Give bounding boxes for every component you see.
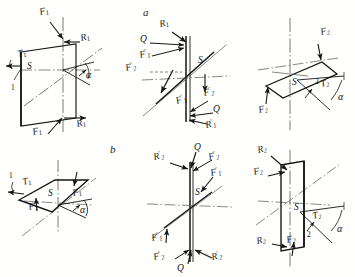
label-a2-F1-prime-bottom: F′1 xyxy=(178,96,189,107)
label-a2-F2-prime-left: F′2 xyxy=(127,63,138,74)
label-a1-R1-top: R1 xyxy=(82,34,91,44)
label-b2-Q-bottom: Q xyxy=(177,264,184,274)
label-a2-Q-bottom: Q xyxy=(213,105,220,115)
row-label-a: a xyxy=(143,6,149,18)
label-b3-S: S xyxy=(294,203,299,213)
label-b3-R2-top: R2 xyxy=(259,146,268,156)
label-b3-alpha: α xyxy=(337,224,342,234)
label-a3-S: S xyxy=(292,78,297,88)
diagram-vectors xyxy=(0,0,355,277)
row-label-b: b xyxy=(110,143,116,155)
label-a3-T2: T2 xyxy=(322,80,331,90)
label-b3-F2-bottom: F2 xyxy=(288,236,297,246)
label-b2-F1-prime-bottom: F′1 xyxy=(153,233,164,244)
label-a1-alpha: α xyxy=(86,70,91,80)
label-b3-two: 2 xyxy=(307,231,311,239)
label-a1-S: S xyxy=(27,62,32,72)
panel-b3-vectors xyxy=(268,156,344,256)
figure-canvas: a b F1 R1 T1 S 1 α F1 R1 R1 Q F′1 S F′2 … xyxy=(0,0,355,277)
label-a1-F1-top: F1 xyxy=(41,8,50,18)
label-b2-Q-top: Q xyxy=(194,143,201,153)
label-a1-T1: T1 xyxy=(19,50,28,60)
label-b2-F2-prime-bottom: F′2 xyxy=(155,252,166,263)
label-b1-F1-right: F1 xyxy=(74,189,83,199)
label-b2-F1-prime-top: F′1 xyxy=(212,168,223,179)
panel-b1-geometry xyxy=(19,160,96,236)
label-b2-F2-prime-top: F′2 xyxy=(210,152,221,163)
label-b2-R2-prime-bottom: R′2 xyxy=(213,252,224,263)
label-a3-two: 2 xyxy=(315,78,319,86)
label-a3-alpha: α xyxy=(338,92,343,102)
label-a2-R1-prime: R′1 xyxy=(207,120,218,131)
label-b3-F2-top: F2 xyxy=(255,168,264,178)
label-b2-S: S xyxy=(195,188,200,198)
label-b3-R2-bottom: R2 xyxy=(258,237,267,247)
label-b3-T2: T2 xyxy=(314,212,323,222)
label-b1-one: 1 xyxy=(9,172,13,180)
label-a1-F1-bottom: F1 xyxy=(34,128,43,138)
label-a2-S: S xyxy=(198,56,203,66)
label-a1-one: 1 xyxy=(11,84,15,92)
label-a1-R1-bottom: R1 xyxy=(78,120,87,130)
label-b1-alpha: α xyxy=(80,205,85,215)
panel-a3-vectors xyxy=(266,44,344,110)
label-a3-F2-bottom: F2 xyxy=(260,106,269,116)
label-b1-S: S xyxy=(48,189,53,199)
label-a2-F2-prime-right: F′2 xyxy=(205,88,216,99)
label-a3-F2-top: F2 xyxy=(322,28,331,38)
label-b1-F1-left: F1 xyxy=(30,203,39,213)
label-a2-F1-prime-top: F′1 xyxy=(141,50,152,61)
label-a2-Q-top: Q xyxy=(140,35,147,45)
label-b1-T1: T1 xyxy=(24,178,33,188)
label-b2-R2-prime-top: R′2 xyxy=(155,152,166,163)
label-a2-R1: R1 xyxy=(161,20,170,30)
